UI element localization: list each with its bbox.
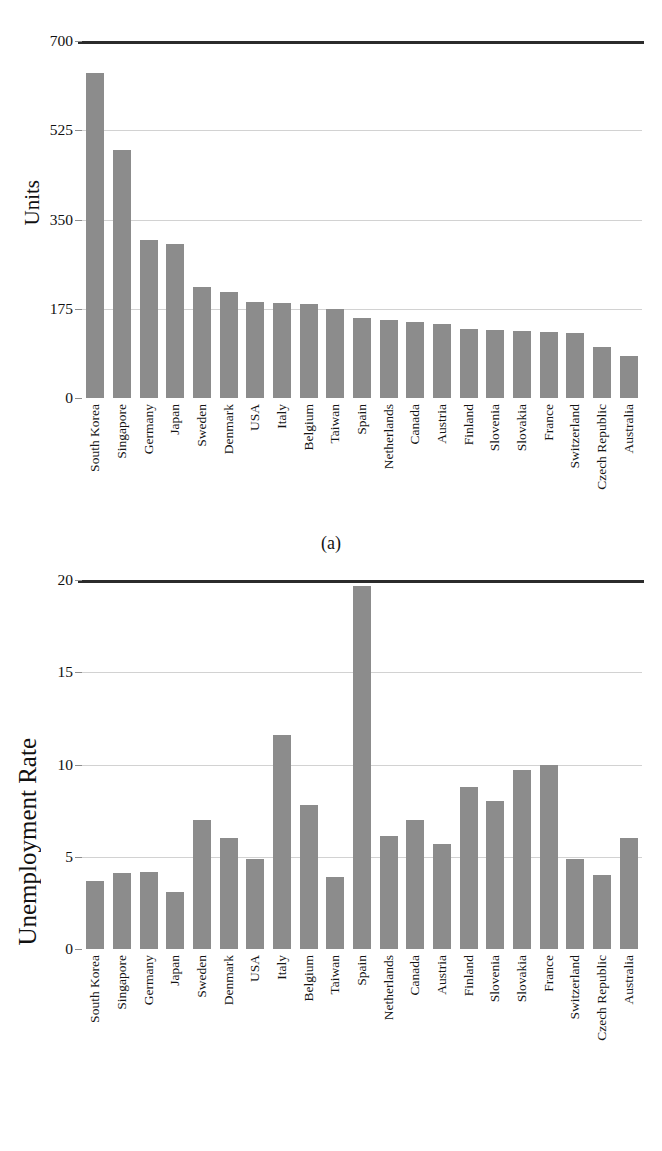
x-axis-tick-label: Singapore — [115, 955, 129, 1010]
bar — [326, 877, 344, 949]
plot-area-a: 0175350525700 — [82, 41, 642, 398]
bar-slot — [82, 41, 109, 398]
x-axis-label-slot: Denmark — [215, 401, 242, 513]
bar — [513, 331, 531, 398]
x-axis-tick-label: Canada — [409, 404, 423, 444]
y-axis-tick-mark — [75, 130, 82, 131]
x-axis-label-slot: Belgium — [295, 401, 322, 513]
bar-slot — [535, 41, 562, 398]
x-axis-tick-label: Sweden — [195, 955, 209, 998]
bar — [273, 735, 291, 949]
y-axis-tick-mark — [75, 949, 82, 950]
y-axis-title-units: Units — [20, 180, 45, 226]
bar-slot — [295, 580, 322, 949]
x-axis-tick-label: Taiwan — [329, 404, 343, 444]
x-axis-label-slot: Austria — [429, 952, 456, 1064]
bar-slot — [109, 41, 136, 398]
y-axis-tick-label: 5 — [65, 849, 73, 865]
x-axis-label-slot: Australia — [615, 952, 642, 1064]
x-axis-label-slot: Netherlands — [375, 952, 402, 1064]
bar — [220, 292, 238, 398]
x-axis-label-slot: Japan — [162, 952, 189, 1064]
x-axis-tick-label: Czech Republic — [595, 955, 609, 1041]
y-axis-tick-label: 0 — [65, 390, 73, 406]
y-axis-tick-mark — [75, 309, 82, 310]
x-axis-tick-label: Denmark — [222, 955, 236, 1005]
bar — [166, 244, 184, 398]
bar — [353, 318, 371, 398]
bar-slot — [109, 580, 136, 949]
x-axis-label-slot: France — [535, 952, 562, 1064]
bar-slot — [295, 41, 322, 398]
bar-slot — [242, 580, 269, 949]
x-axis-label-slot: Slovakia — [509, 401, 536, 513]
bar-slot — [402, 580, 429, 949]
bar-slot — [455, 41, 482, 398]
x-axis-tick-label: Japan — [169, 404, 183, 435]
x-axis-tick-label: Belgium — [302, 955, 316, 1002]
x-axis-tick-label: Spain — [355, 404, 369, 435]
bar-slot — [429, 580, 456, 949]
x-axis-label-slot: Czech Republic — [589, 952, 616, 1064]
x-axis-tick-label: USA — [249, 955, 263, 982]
bar — [353, 586, 371, 949]
bar — [113, 873, 131, 949]
x-axis-tick-label: Austria — [435, 404, 449, 444]
bar-slot — [562, 41, 589, 398]
bar — [113, 150, 131, 398]
x-axis-label-slot: Belgium — [295, 952, 322, 1064]
bar — [406, 322, 424, 398]
bar — [593, 875, 611, 949]
x-axis-label-slot: Germany — [135, 401, 162, 513]
bar-slot — [322, 580, 349, 949]
bar-slot — [375, 580, 402, 949]
x-axis-tick-label: Switzerland — [569, 404, 583, 468]
y-axis-tick-label: 700 — [50, 33, 73, 49]
x-axis-label-slot: Switzerland — [562, 952, 589, 1064]
x-axis-label-slot: Slovenia — [482, 952, 509, 1064]
bar — [246, 302, 264, 398]
y-axis-tick-mark — [75, 857, 82, 858]
x-axis-labels-a: South KoreaSingaporeGermanyJapanSwedenDe… — [82, 401, 642, 513]
x-axis-tick-label: France — [542, 404, 556, 441]
y-axis-tick-mark — [75, 41, 82, 42]
x-axis-label-slot: Sweden — [189, 401, 216, 513]
bar-slot — [269, 41, 296, 398]
bar-slot — [615, 580, 642, 949]
y-axis-tick-label: 175 — [50, 301, 73, 317]
x-axis-label-slot: Austria — [429, 401, 456, 513]
x-axis-label-slot: USA — [242, 401, 269, 513]
x-axis-label-slot: France — [535, 401, 562, 513]
bar — [460, 329, 478, 398]
x-axis-label-slot: Italy — [269, 952, 296, 1064]
y-axis-tick-label: 350 — [50, 212, 73, 228]
y-axis-tick-mark — [75, 765, 82, 766]
bar-slot — [269, 580, 296, 949]
bar-slot — [562, 580, 589, 949]
x-axis-tick-label: South Korea — [89, 404, 103, 472]
x-axis-label-slot: Canada — [402, 401, 429, 513]
x-axis-tick-label: Australia — [622, 404, 636, 454]
x-axis-label-slot: Finland — [455, 401, 482, 513]
x-axis-label-slot: Slovenia — [482, 401, 509, 513]
x-axis-label-slot: USA — [242, 952, 269, 1064]
x-axis-label-slot: Italy — [269, 401, 296, 513]
bar — [433, 844, 451, 949]
bar-slot — [349, 41, 376, 398]
bar — [540, 765, 558, 950]
bar — [86, 881, 104, 949]
x-axis-tick-label: Finland — [462, 404, 476, 445]
bar-slot — [135, 41, 162, 398]
x-axis-tick-label: Australia — [622, 955, 636, 1005]
bar — [620, 838, 638, 949]
x-axis-label-slot: Czech Republic — [589, 401, 616, 513]
bar-slot — [375, 41, 402, 398]
x-axis-label-slot: South Korea — [82, 952, 109, 1064]
bar-slot — [215, 41, 242, 398]
figure-panel-b: Unemployment Rate 05101520 South KoreaSi… — [0, 560, 662, 1151]
bar-slot — [322, 41, 349, 398]
x-axis-tick-label: South Korea — [89, 955, 103, 1023]
bar — [140, 872, 158, 949]
y-axis-tick-label: 15 — [58, 665, 74, 681]
bar-slot — [135, 580, 162, 949]
